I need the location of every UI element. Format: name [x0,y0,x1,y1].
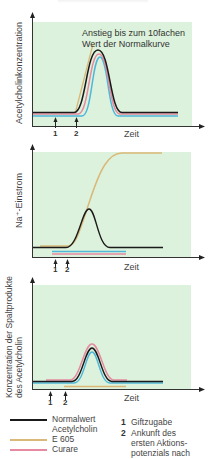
note-2-text-1: Ankunft des [131,428,176,438]
legend-label-curare: Curare [52,444,78,454]
y-axis-label-cleavage-1: Konzentration der Spaltprodukte [4,276,14,398]
legend-label-e605: E 605 [52,434,74,444]
plot-background [33,152,191,257]
x-axis-arrow-icon [199,387,205,392]
marker-1-label: 1 [48,398,52,407]
marker-1-arrow-icon [49,391,53,396]
annotation-line-2: Wert der Normalkurve [82,39,170,50]
x-axis-label: Zeit [124,393,139,403]
y-axis-label-cleavage-2: des Acetylcholin [14,337,24,398]
x-axis-arrow-icon [199,255,205,260]
note-2-text-3: potenzials nach [131,448,190,458]
legend-swatch-curare [10,449,47,451]
legend-label-normal-2: Acetylcholin [52,424,97,434]
y-axis-arrow-icon [30,277,35,283]
y-axis-arrow-icon [30,144,35,150]
marker-2-arrow-icon [64,391,68,396]
marker-2-label: 2 [74,129,78,138]
y-axis-arrow-icon [30,12,35,18]
marker-2-arrow-icon [66,259,70,264]
annotation-line-1: Anstieg bis zum 10fachen [82,28,185,39]
marker-1-label: 1 [53,265,57,274]
y-axis-label-acetylcholine: Acetylcholinkonzentration [14,22,24,124]
note-1-number: 1 [121,417,126,427]
marker-2-label: 2 [63,398,67,407]
note-2-text-2: ersten Aktions- [131,438,187,448]
plot-background [33,285,191,389]
marker-2-label: 2 [65,265,69,274]
y-axis-label-na-influx: Na⁺-Einstrom [14,173,24,228]
legend-label-normal-1: Normalwert [52,414,95,424]
note-2-number: 2 [121,428,126,438]
legend-swatch-e605 [10,439,47,441]
chart-cleavage-products [30,277,205,400]
charts-canvas [0,0,210,459]
marker-1-arrow-icon [54,259,58,264]
chart-na-influx [30,144,205,268]
x-axis-label: Zeit [124,262,139,272]
marker-1-label: 1 [53,129,57,138]
x-axis-label: Zeit [124,129,139,139]
legend-swatch-normal [10,419,47,421]
x-axis-arrow-icon [199,124,205,129]
note-1-text: Giftzugabe [131,417,172,427]
